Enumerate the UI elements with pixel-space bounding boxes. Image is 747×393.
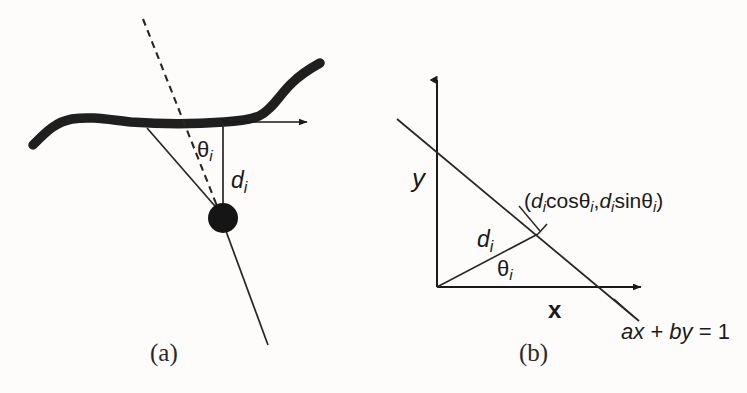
- y-axis-label: y: [412, 165, 425, 191]
- angle-label-b: θi: [497, 258, 513, 280]
- perpendicular-tick: [538, 224, 547, 234]
- equation-label-leader: [614, 299, 633, 316]
- contour-curve: [33, 63, 320, 145]
- dashed-reference-line: [143, 19, 219, 211]
- figure-container: θi di (a) y x di θi (dicosθi,disinθi) ax…: [0, 0, 747, 393]
- point-coordinates-label: (dicosθi,disinθi): [524, 190, 663, 211]
- distance-label-b: di: [477, 228, 493, 251]
- panel-caption-a: (a): [150, 340, 178, 365]
- data-point-dot: [208, 203, 238, 233]
- panel-caption-b: (b): [519, 340, 548, 365]
- distance-label-a: di: [231, 169, 247, 192]
- angle-label-a: θi: [197, 139, 213, 161]
- line-equation-label: ax + by = 1: [621, 321, 730, 343]
- x-axis-label: x: [548, 298, 561, 322]
- constraint-line: [397, 119, 639, 321]
